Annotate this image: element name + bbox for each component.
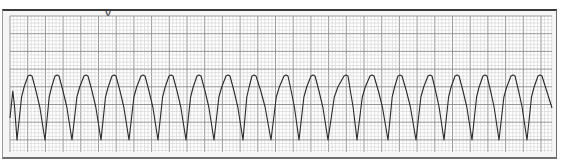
ecg-rhythm-strip [0,0,562,162]
